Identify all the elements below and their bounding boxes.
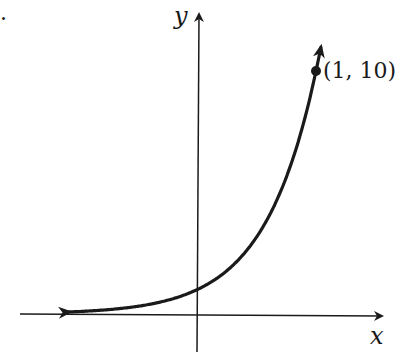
- y-axis-label: y: [174, 2, 188, 30]
- x-axis: [20, 314, 382, 316]
- point-label: (1, 10): [323, 58, 396, 83]
- margin-mark: .: [0, 0, 7, 25]
- x-axis-label: x: [370, 322, 384, 350]
- y-axis: [197, 14, 199, 352]
- point-marker: [311, 66, 321, 76]
- exponential-graph: [0, 0, 412, 354]
- exponential-curve: [69, 48, 321, 312]
